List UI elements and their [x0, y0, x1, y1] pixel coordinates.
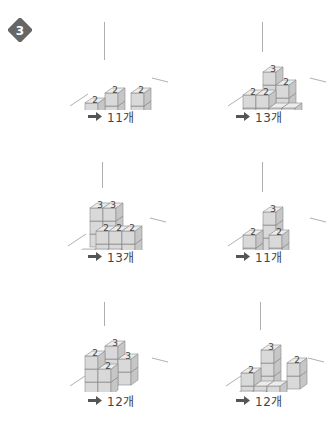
answer-4: 11개	[236, 248, 283, 265]
stack-height-label: 3	[125, 351, 131, 361]
arrow-right-icon	[236, 396, 250, 405]
answer-value: 12개	[107, 395, 135, 409]
stack-height-label: 2	[116, 223, 122, 233]
arrow-right-icon	[236, 112, 250, 121]
stack-height-label: 2	[250, 227, 256, 237]
stack-height-label: 3	[110, 200, 116, 210]
stack-height-label: 3	[268, 342, 274, 352]
stack-height-label: 2	[248, 365, 254, 375]
arrow-right-icon	[88, 396, 102, 405]
stack-height-label: 2	[112, 85, 118, 95]
answer-value: 11개	[107, 111, 135, 125]
stack-height-label: 2	[283, 77, 289, 87]
cube-stack-figure-6: 322	[198, 300, 330, 392]
cube-stack-figure-4: 322	[198, 160, 330, 250]
answer-2: 13개	[236, 108, 283, 125]
answer-value: 13개	[255, 111, 283, 125]
arrow-right-icon	[88, 112, 102, 121]
cube-stack-figure-2: 3222	[198, 20, 330, 110]
answer-value: 13개	[107, 251, 135, 265]
figure-panel-6: 322 12개	[198, 300, 330, 424]
stack-height-label: 3	[112, 338, 118, 348]
figure-panel-5: 3322 12개	[40, 300, 190, 424]
stack-height-label: 2	[263, 87, 269, 97]
answer-value: 12개	[255, 395, 283, 409]
stack-height-label: 2	[105, 361, 111, 371]
stack-height-label: 2	[250, 87, 256, 97]
stack-height-label: 2	[103, 223, 109, 233]
cube-stack-figure-3: 33222	[40, 160, 190, 250]
answer-5: 12개	[88, 392, 135, 409]
figure-panel-1: 222 11개	[40, 20, 190, 150]
arrow-right-icon	[236, 252, 250, 261]
answer-1: 11개	[88, 108, 135, 125]
stack-height-label: 3	[270, 64, 276, 74]
arrow-right-icon	[88, 252, 102, 261]
cube-stack-figure-5: 3322	[40, 300, 190, 392]
answer-6: 12개	[236, 392, 283, 409]
problem-number-badge: 3	[8, 18, 32, 42]
answer-value: 11개	[255, 251, 283, 265]
stack-height-label: 2	[138, 85, 144, 95]
cube-stack-figure-1: 222	[40, 20, 190, 110]
figure-panel-4: 322 11개	[198, 160, 330, 290]
stack-height-label: 2	[276, 227, 282, 237]
stack-height-label: 2	[294, 355, 300, 365]
stack-height-label: 2	[92, 95, 98, 105]
stack-height-label: 3	[97, 200, 103, 210]
stack-height-label: 2	[129, 223, 135, 233]
figure-panel-2: 3222 13개	[198, 20, 330, 150]
answer-3: 13개	[88, 248, 135, 265]
problem-number: 3	[16, 24, 24, 38]
figure-panel-3: 33222 13개	[40, 160, 190, 290]
stack-height-label: 3	[270, 204, 276, 214]
stack-height-label: 2	[92, 348, 98, 358]
